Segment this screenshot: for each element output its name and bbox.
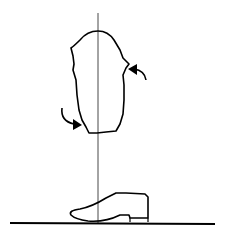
shoe: [70, 193, 148, 221]
alignment-diagram: [0, 0, 230, 235]
ground-line: [10, 223, 215, 224]
rotation-arrow-left-curve: [62, 108, 74, 124]
rotation-arrow-left-head: [73, 119, 82, 130]
limb-socket-outline: [71, 31, 129, 133]
rotation-arrow-right-head: [128, 64, 137, 75]
